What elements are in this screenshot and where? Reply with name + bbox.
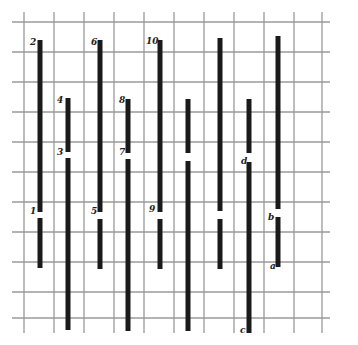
- bar-segment: [158, 40, 163, 212]
- bar-label: 2: [29, 37, 36, 47]
- bar-label: 1: [30, 206, 36, 216]
- bar-label: 3: [57, 147, 63, 157]
- bar-label: 8: [119, 95, 126, 105]
- bar-segment: [218, 219, 223, 269]
- bar-label: 5: [91, 206, 97, 216]
- bar-segment: [218, 38, 223, 211]
- bar-segment: [126, 99, 131, 153]
- bar-label: c: [240, 325, 246, 335]
- bar-segment: [186, 161, 191, 331]
- bar-segment: [66, 158, 71, 330]
- segment-diagram: 21436587109dbac: [0, 0, 358, 345]
- bar-segment: [98, 219, 103, 269]
- bar-label: 6: [91, 37, 98, 47]
- bar-label: d: [241, 156, 248, 166]
- bar-label: 10: [146, 36, 159, 46]
- bars: [38, 36, 281, 333]
- bar-segment: [98, 40, 103, 212]
- bar-label: a: [270, 261, 276, 271]
- bar-segment: [38, 218, 43, 268]
- bar-segment: [66, 98, 71, 152]
- bar-segment: [247, 162, 252, 333]
- bar-label: 9: [149, 204, 156, 214]
- bar-segment: [186, 99, 191, 153]
- bar-segment: [126, 159, 131, 331]
- bar-segment: [247, 99, 252, 153]
- bar-segment: [276, 36, 281, 209]
- bar-segment: [158, 219, 163, 269]
- bar-segment: [38, 40, 43, 212]
- bar-label: 4: [57, 95, 63, 105]
- bar-label: b: [268, 212, 274, 222]
- grid: [12, 12, 330, 333]
- bar-segment: [276, 217, 281, 267]
- bar-label: 7: [119, 147, 126, 157]
